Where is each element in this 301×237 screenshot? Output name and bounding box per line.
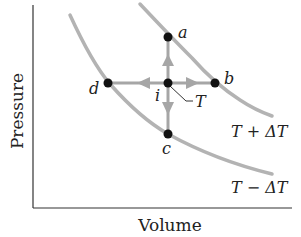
- label-c: c: [162, 139, 171, 158]
- arrow-down-icon: [162, 102, 174, 115]
- point-i: [164, 79, 173, 88]
- label-isotherm-lower: T − ΔT: [231, 178, 289, 197]
- point-c: [164, 130, 173, 139]
- y-axis-label: Pressure: [7, 73, 27, 149]
- point-b: [211, 79, 220, 88]
- pv-diagram: a b c d i T T + ΔT T − ΔT Pressure Volum…: [0, 0, 301, 237]
- x-axis-label: Volume: [137, 215, 202, 235]
- label-b: b: [224, 69, 234, 88]
- point-d: [104, 79, 113, 88]
- label-isotherm-upper: T + ΔT: [231, 122, 289, 141]
- label-i: i: [155, 86, 160, 105]
- arrow-left-icon: [137, 77, 150, 89]
- label-d: d: [89, 79, 99, 98]
- label-a: a: [178, 23, 188, 42]
- arrow-right-icon: [186, 77, 199, 89]
- callout-leader: [170, 86, 186, 101]
- label-callout-T: T: [195, 92, 207, 111]
- arrow-up-icon: [162, 54, 174, 66]
- point-a: [164, 33, 173, 42]
